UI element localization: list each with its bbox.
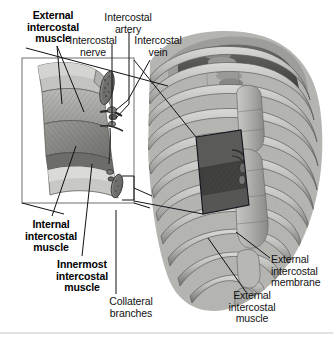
label-innermost-intercostal-muscle: Innermost intercostal muscle [36, 259, 128, 294]
label-intercostal-artery: Intercostal artery [92, 12, 164, 35]
footer-rule [0, 332, 333, 334]
label-external-intercostal-muscle-right: External intercostal muscle [213, 290, 291, 325]
label-intercostal-vein: Intercostal vein [122, 35, 194, 58]
label-intercostal-nerve: Intercostal nerve [57, 35, 129, 58]
cutaway-window [196, 130, 249, 214]
label-collateral-branches: Collateral branches [96, 296, 166, 319]
label-external-intercostal-membrane: External intercostal membrane [271, 254, 333, 289]
anatomy-figure: External intercostal muscle Intercostal … [0, 0, 333, 341]
label-internal-intercostal-muscle: Internal intercostal muscle [8, 219, 94, 254]
